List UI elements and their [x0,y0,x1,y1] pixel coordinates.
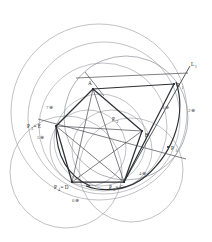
label-P3-equals-E: = E [34,123,41,129]
vertex-C [123,181,125,183]
label-P4: P [54,184,57,190]
label-P3-left: P [27,123,30,129]
label-B: B [145,132,149,138]
label-P2: P [112,116,115,122]
vertex-P1 [173,83,175,85]
vertex-markers [55,83,175,183]
label-P3: P [171,145,174,151]
label-P4-equals-D: = D [61,184,69,190]
vertex-E [55,125,57,127]
label-P1: P [177,82,180,88]
vertex-D [71,181,73,183]
figure-canvas: A B P 1 P 2 P 3 P 4 = D P 5 [0,0,212,242]
circle-label-6: 6⊕ [72,198,79,203]
vertex-P3 [167,146,169,148]
circle-label-4: 4⊕ [139,171,146,176]
diagonal-E-C [56,126,124,182]
label-L1-group: L 1 [191,61,197,69]
label-L1: L [191,61,194,67]
label-P1-subscript: 1 [182,86,184,90]
edge-A-P1 [93,84,174,89]
circle-label-2: 2⊕ [188,108,195,113]
pentagon-outline [56,84,174,182]
circle-label-5: 5⊕ [37,135,44,140]
circle-label-7: 7⊕ [46,105,53,110]
label-P3-subscript: 3 [176,149,178,153]
diagonal-D-B [72,131,142,182]
label-P5: P [109,184,112,190]
label-P2-subscript: 2 [117,120,119,124]
label-P5-equals-C: = C [116,184,124,190]
circle-label-3: 3⊕ [162,105,169,110]
label-P4-eq-D-group: P 4 = D [54,184,69,192]
geometric-figure: A B P 1 P 2 P 3 P 4 = D P 5 [0,0,212,242]
label-A: A [88,80,92,86]
label-L1-subscript: 1 [195,65,197,69]
vertex-A [92,88,94,90]
vertex-B [141,130,143,132]
label-P2-group: P 2 [112,116,119,124]
